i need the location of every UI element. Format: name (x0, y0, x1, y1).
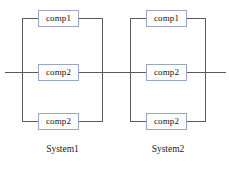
system2-block-comp2-bottom-label: comp2 (154, 117, 179, 126)
system1-block-comp1[interactable]: comp1 (38, 10, 79, 27)
system1-block-comp2-middle-label: comp2 (46, 68, 71, 77)
system1-block-comp2-bottom[interactable]: comp2 (38, 113, 79, 130)
system2-top-branch-right-wire (186, 18, 206, 19)
system2-label: System2 (126, 145, 210, 155)
system1-label: System1 (22, 145, 103, 155)
trunk-line-interconnect (102, 72, 131, 73)
system2-bottom-branch-left-wire (130, 121, 147, 122)
trunk-line-right-lead (205, 72, 226, 73)
diagram-canvas: comp1 comp2 comp2 System1 comp1 comp2 co… (0, 0, 229, 170)
system1-block-comp2-bottom-label: comp2 (46, 117, 71, 126)
system1-bottom-branch-right-wire (78, 121, 103, 122)
system1-top-branch-left-wire (22, 18, 39, 19)
system2-block-comp1[interactable]: comp1 (146, 10, 187, 27)
system2-top-branch-left-wire (130, 18, 147, 19)
system2-block-comp2-bottom[interactable]: comp2 (146, 113, 187, 130)
trunk-line-system1-right-stub (78, 72, 103, 73)
system2-block-comp1-label: comp1 (154, 14, 179, 23)
trunk-line-system2-right-stub (186, 72, 206, 73)
system2-left-bus (130, 18, 131, 121)
system1-right-bus (102, 18, 103, 121)
system2-right-bus (205, 18, 206, 121)
system2-bottom-branch-right-wire (186, 121, 206, 122)
system2-block-comp2-middle[interactable]: comp2 (146, 64, 187, 81)
system1-left-bus (22, 18, 23, 121)
trunk-line-system1-left-stub (22, 72, 39, 73)
system1-bottom-branch-left-wire (22, 121, 39, 122)
system1-block-comp2-middle[interactable]: comp2 (38, 64, 79, 81)
system1-top-branch-right-wire (78, 18, 103, 19)
system2-block-comp2-middle-label: comp2 (154, 68, 179, 77)
system1-block-comp1-label: comp1 (46, 14, 71, 23)
trunk-line-left-lead (5, 72, 23, 73)
trunk-line-system2-left-stub (130, 72, 147, 73)
